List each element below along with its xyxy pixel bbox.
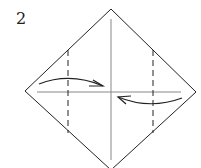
- fold-diagram: [0, 0, 201, 168]
- right-arrow-icon: [118, 96, 182, 104]
- left-arrow-icon: [39, 78, 103, 86]
